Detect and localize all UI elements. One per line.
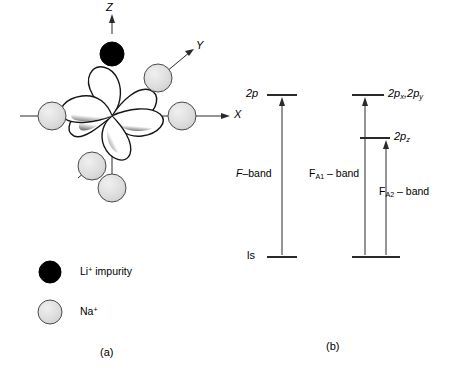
f-band-arrowhead bbox=[279, 97, 285, 106]
band-label-fa1: FA1 – band bbox=[309, 168, 359, 181]
band-label-fa2: FA2 – band bbox=[379, 186, 429, 199]
level-label-2p: 2p bbox=[246, 88, 258, 99]
level-label-1s: ls bbox=[247, 250, 255, 261]
level-label-2pxy: 2px,2py bbox=[388, 88, 423, 100]
level-label-2pz: 2pz bbox=[394, 131, 410, 143]
panel-b-caption: (b) bbox=[326, 341, 339, 352]
band-label-f: F–band bbox=[236, 168, 272, 179]
fa2-band-arrowhead bbox=[383, 140, 389, 149]
figure-root: Z Y X Li+ impurity Na+ (a) 2p bbox=[0, 0, 449, 373]
fa1-band-arrowhead bbox=[362, 97, 368, 106]
